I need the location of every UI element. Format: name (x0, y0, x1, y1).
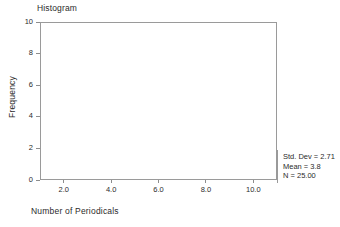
x-tick-label: 10.0 (246, 185, 261, 194)
x-tick-mark (63, 180, 64, 183)
stat-n: N = 25.00 (283, 171, 335, 181)
stat-std-dev: Std. Dev = 2.71 (283, 152, 335, 162)
x-tick-mark (253, 180, 254, 183)
x-tick-label: 2.0 (58, 185, 68, 194)
x-axis-title: Number of Periodicals (31, 206, 119, 216)
x-tick-mark (158, 180, 159, 183)
y-tick-label: 8 (29, 48, 33, 57)
y-tick-mark (36, 116, 40, 117)
x-tick-mark (111, 180, 112, 183)
y-tick-mark (36, 53, 40, 54)
chart-title: Histogram (37, 3, 77, 13)
y-axis-title: Frequency (7, 52, 17, 142)
y-tick-label: 2 (29, 143, 33, 152)
x-tick-mark (205, 180, 206, 183)
y-tick-label: 10 (25, 17, 33, 26)
stat-mean: Mean = 3.8 (283, 162, 335, 172)
x-axis: Number of Periodicals 2.04.06.08.010.0 (0, 180, 340, 227)
statistics-box: Std. Dev = 2.71 Mean = 3.8 N = 25.00 (277, 150, 335, 183)
plot-area (40, 22, 277, 180)
plot-bars-layer (41, 23, 276, 179)
x-tick-label: 6.0 (153, 185, 163, 194)
x-tick-label: 4.0 (106, 185, 116, 194)
x-tick-label: 8.0 (201, 185, 211, 194)
y-tick-mark (36, 148, 40, 149)
y-tick-label: 6 (29, 80, 33, 89)
histogram-chart: Histogram Frequency 0246810 Number of Pe… (0, 0, 340, 227)
y-tick-mark (36, 22, 40, 23)
y-tick-mark (36, 85, 40, 86)
y-tick-label: 4 (29, 111, 33, 120)
